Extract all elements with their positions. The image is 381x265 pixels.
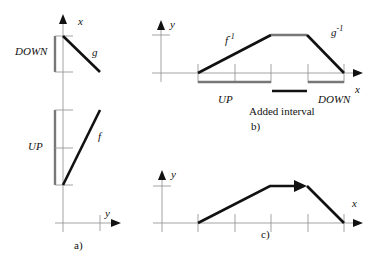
- panel-a-x-label: x: [77, 15, 83, 27]
- curve-path-rise: [198, 186, 296, 223]
- g-inverse-label: g-1: [331, 24, 343, 38]
- panel-c: y x c): [153, 168, 363, 241]
- arrow-up-icon: [59, 14, 67, 24]
- curve-g-label: g: [92, 46, 98, 58]
- arrow-right-icon: [294, 180, 307, 192]
- curve-f: [63, 110, 100, 185]
- panel-b-y-label: y: [169, 18, 175, 30]
- added-interval-label: Added interval: [249, 105, 315, 117]
- panel-c-caption: c): [261, 228, 270, 241]
- panel-b: y x UP DOWN Added interval f-1 g-1 b): [152, 18, 363, 133]
- panel-a-y-label: y: [104, 207, 110, 219]
- up-label: UP: [218, 93, 233, 105]
- arrow-right-icon: [353, 219, 363, 227]
- diagram-figure: x y DOWN g UP f a) y x: [0, 0, 381, 265]
- down-label: DOWN: [317, 93, 351, 105]
- panel-c-x-label: x: [351, 197, 357, 209]
- curve-path-fall: [307, 186, 344, 223]
- arrow-up-icon: [157, 20, 165, 30]
- panel-c-y-label: y: [170, 168, 176, 180]
- arrow-up-icon: [158, 170, 166, 180]
- f-inverse-label: f-1: [225, 32, 235, 46]
- down-label: DOWN: [14, 45, 48, 57]
- curve-g-inverse: [307, 35, 344, 73]
- curve-f-label: f: [98, 130, 103, 142]
- up-label: UP: [28, 140, 43, 152]
- panel-a: x y DOWN g UP f a): [14, 14, 121, 252]
- arrow-right-icon: [111, 219, 121, 227]
- arrow-right-icon: [353, 69, 363, 77]
- panel-b-x-label: x: [354, 83, 360, 95]
- panel-b-caption: b): [251, 120, 261, 133]
- panel-a-caption: a): [74, 239, 83, 252]
